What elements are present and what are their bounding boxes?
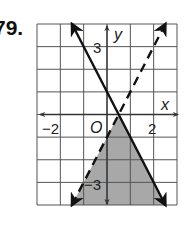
x-axis-label: x [160, 96, 170, 113]
x-tick-2: 2 [148, 120, 156, 137]
x-tick-neg2: −2 [42, 120, 59, 137]
y-tick-neg3: −3 [84, 176, 101, 193]
y-tick-3: 3 [93, 39, 101, 56]
y-axis-label: y [113, 26, 123, 43]
coordinate-plane: x y O −2 2 3 −3 [0, 0, 192, 227]
origin-label: O [90, 119, 102, 136]
